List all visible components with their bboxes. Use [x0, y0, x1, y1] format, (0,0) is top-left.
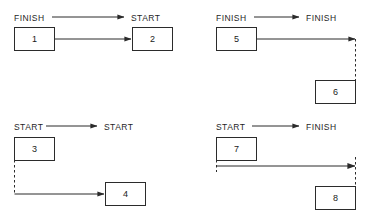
panel-start-to-finish: START FINISH 7 8 [184, 111, 368, 222]
panel-header-to-label: FINISH [306, 13, 337, 23]
activity-box[interactable]: 7 [216, 137, 257, 161]
activity-box-label: 1 [32, 34, 37, 44]
activity-box-label: 2 [150, 34, 155, 44]
activity-box-label: 6 [333, 87, 338, 97]
activity-box-label: 8 [333, 193, 338, 203]
panel-header-from-label: START [14, 122, 43, 132]
activity-box-label: 4 [123, 189, 128, 199]
panel-header-from-label: START [216, 122, 245, 132]
panel-header-to-label: FINISH [306, 122, 337, 132]
panel-header-from-label: FINISH [216, 13, 247, 23]
activity-box[interactable]: 6 [315, 80, 356, 104]
panel-finish-to-finish: FINISH FINISH 5 6 [184, 0, 368, 111]
activity-box-label: 7 [234, 144, 239, 154]
panel-header-to-label: START [104, 122, 133, 132]
activity-box[interactable]: 3 [14, 137, 55, 161]
panel-start-to-start: START START 3 4 [0, 111, 184, 222]
activity-box[interactable]: 4 [105, 182, 146, 206]
activity-box[interactable]: 2 [132, 27, 173, 51]
panel-header-to-label: START [131, 13, 160, 23]
activity-box-label: 5 [234, 34, 239, 44]
activity-box[interactable]: 1 [14, 27, 55, 51]
activity-box[interactable]: 5 [216, 27, 257, 51]
panel-header-from-label: FINISH [14, 13, 45, 23]
relationship-diagram: FINISH START 1 2 FINISH FINISH [0, 0, 368, 222]
panel-finish-to-start: FINISH START 1 2 [0, 0, 184, 111]
activity-box-label: 3 [32, 144, 37, 154]
activity-box[interactable]: 8 [315, 186, 356, 210]
